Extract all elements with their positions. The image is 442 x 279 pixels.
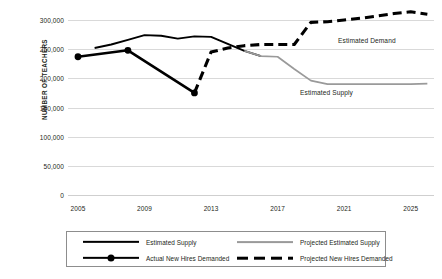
y-axis-tick-label: 250,000 [40, 46, 64, 53]
annotation-estimated-demand: Estimated Demand [338, 37, 396, 44]
legend-item[interactable]: Actual New Hires Demanded [83, 252, 229, 264]
legend-item-label: Estimated Supply [146, 239, 197, 246]
annotation-estimated-supply: Estimated Supply [300, 89, 353, 96]
legend-swatch [237, 237, 293, 247]
series-line [78, 50, 194, 93]
y-axis-tick-label: 150,000 [40, 104, 64, 111]
legend-line-sample [237, 241, 293, 243]
y-axis-tick-label: 0 [60, 192, 64, 199]
series-data-point [75, 53, 82, 60]
legend-marker-dot [108, 255, 115, 262]
series-data-point [124, 47, 131, 54]
series-line [95, 35, 261, 56]
legend-item-label: Projected New Hires Demanded [300, 255, 393, 262]
y-axis-tick-label: 300,000 [40, 17, 64, 24]
legend-swatch [237, 253, 293, 263]
x-axis-tick-label: 2021 [337, 205, 352, 212]
series-lines [68, 20, 434, 195]
plot-area [68, 20, 434, 195]
x-axis-tick-label: 2009 [137, 205, 152, 212]
legend-item[interactable]: Projected Estimated Supply [237, 236, 380, 248]
x-axis-tick-label: 2017 [270, 205, 285, 212]
x-axis-tick-label: 2013 [204, 205, 219, 212]
x-axis-tick-label: 2025 [403, 205, 418, 212]
y-axis-tick-labels: 050,000100,000150,000200,000250,000300,0… [14, 12, 64, 203]
y-axis-tick-label: 50,000 [44, 162, 64, 169]
legend-item-label: Projected Estimated Supply [300, 239, 380, 246]
x-axis-tick-labels: 200520092013201720212025 [68, 199, 434, 217]
legend-line-sample [83, 241, 139, 243]
y-axis-tick-label: 200,000 [40, 75, 64, 82]
legend-item[interactable]: Projected New Hires Demanded [237, 252, 393, 264]
legend-item[interactable]: Estimated Supply [83, 236, 197, 248]
x-axis-tick-label: 2005 [71, 205, 86, 212]
series-line [244, 51, 427, 84]
legend-item-label: Actual New Hires Demanded [146, 255, 229, 262]
chart-legend: Estimated SupplyActual New Hires Demande… [66, 231, 386, 267]
legend-swatch [83, 237, 139, 247]
top-clipped-text [150, 0, 290, 6]
teacher-supply-demand-chart: NUMBER OF TEACHERS 050,000100,000150,000… [0, 0, 442, 279]
y-axis-tick-label: 100,000 [40, 133, 64, 140]
legend-line-sample [237, 257, 293, 260]
legend-swatch [83, 253, 139, 263]
axis-baseline [68, 195, 434, 196]
